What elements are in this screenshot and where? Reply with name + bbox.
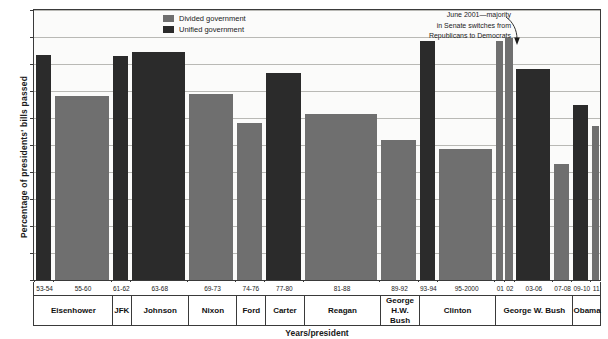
annotation-line-2: in Senate switches from: [375, 21, 511, 32]
legend-swatch-divided-icon: [163, 15, 174, 22]
president-label-row: EisenhowerJFKJohnsonNixonFordCarterReaga…: [33, 296, 601, 326]
chart-root: Percentage of presidents' bills passed 0…: [0, 0, 608, 339]
y-axis-title: Percentage of presidents' bills passed: [19, 47, 29, 267]
year-label: 93-94: [419, 282, 438, 295]
president-label: Johnson: [131, 296, 189, 325]
bar: [592, 126, 599, 280]
x-axis-title: Years/president: [33, 328, 601, 338]
bar: [554, 164, 569, 280]
president-label: George W. Bush: [495, 296, 572, 325]
president-label: Obama: [572, 296, 601, 325]
year-label: 74-76: [236, 282, 265, 295]
year-label: 69-73: [188, 282, 236, 295]
annotation-line-3: Republicans to Democrats: [375, 31, 511, 42]
bar: [189, 94, 233, 280]
year-label: 53-54: [35, 282, 54, 295]
president-label: George H.W. Bush: [380, 296, 418, 325]
year-label: 01: [495, 282, 505, 295]
year-label: 09-10: [572, 282, 591, 295]
bar: [36, 55, 51, 280]
bar: [237, 123, 262, 280]
plot-area: 0102030405060708090100: [33, 9, 601, 281]
president-label: Nixon: [188, 296, 236, 325]
legend-item-unified: Unified government: [163, 24, 246, 35]
president-label: Clinton: [419, 296, 496, 325]
president-label: Ford: [236, 296, 265, 325]
year-label: 55-60: [54, 282, 112, 295]
president-label: Carter: [265, 296, 303, 325]
legend-label-divided: Divided government: [179, 13, 246, 24]
bar: [266, 73, 300, 280]
legend-item-divided: Divided government: [163, 13, 246, 24]
year-label: 95-2000: [438, 282, 496, 295]
bar: [381, 140, 415, 280]
year-label: 61-62: [112, 282, 131, 295]
bar: [516, 69, 550, 280]
year-label: 07-08: [553, 282, 572, 295]
president-label: Eisenhower: [35, 296, 112, 325]
year-label: 03-06: [515, 282, 553, 295]
year-label: 63-68: [131, 282, 189, 295]
bar-series: [34, 10, 600, 280]
bar: [496, 41, 503, 280]
bar: [505, 38, 512, 280]
president-label: JFK: [112, 296, 131, 325]
year-label-row: 53-5455-6061-6263-6869-7374-7677-8081-88…: [33, 282, 601, 296]
bar: [113, 56, 128, 280]
bar: [439, 149, 493, 280]
year-label: 89-92: [380, 282, 418, 295]
annotation-senate-switch: June 2001—majority in Senate switches fr…: [375, 10, 511, 42]
year-label: 77-80: [265, 282, 303, 295]
bar: [305, 114, 378, 280]
annotation-line-1: June 2001—majority: [375, 10, 511, 21]
bar: [55, 96, 109, 280]
year-label: 11: [591, 282, 601, 295]
year-label: 81-88: [304, 282, 381, 295]
legend: Divided government Unified government: [163, 13, 246, 35]
legend-label-unified: Unified government: [179, 24, 244, 35]
bar: [132, 52, 186, 280]
bar: [573, 105, 588, 281]
legend-swatch-unified-icon: [163, 26, 174, 33]
year-label: 02: [505, 282, 515, 295]
president-label: Reagan: [304, 296, 381, 325]
bar: [420, 41, 435, 280]
